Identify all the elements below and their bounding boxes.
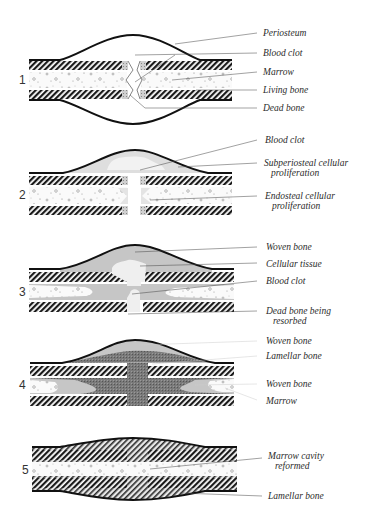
label-dead-bone-resorbed: Dead bone being resorbed	[266, 306, 331, 326]
label-dead-bone: Dead bone	[263, 103, 304, 113]
label-line-2: resorbed	[266, 316, 331, 326]
label-line-2: proliferation	[265, 201, 335, 211]
label-line-1: Marrow cavity	[268, 451, 324, 461]
label-line-2: proliferation	[264, 168, 348, 178]
label-woven-bone-4a: Woven bone	[266, 336, 312, 346]
stage-number-5: 5	[22, 464, 29, 476]
label-marrow-cavity-reformed: Marrow cavity reformed	[268, 451, 324, 471]
stage-2	[29, 140, 257, 215]
label-blood-clot: Blood clot	[263, 48, 302, 58]
label-woven-bone: Woven bone	[266, 242, 312, 252]
stage-5	[32, 438, 262, 500]
label-endosteal-proliferation: Endosteal cellular proliferation	[265, 191, 335, 211]
label-marrow: Marrow	[263, 67, 294, 77]
label-line-1: Subperiosteal cellular	[264, 158, 348, 168]
label-lamellar-bone-5: Lamellar bone	[268, 491, 324, 501]
stage-1	[29, 33, 257, 124]
stage-number-3: 3	[19, 286, 26, 298]
stage-3	[29, 245, 257, 314]
label-living-bone: Living bone	[263, 85, 308, 95]
label-marrow-4: Marrow	[266, 396, 297, 406]
label-line-1: Dead bone being	[266, 306, 331, 316]
stage-number-1: 1	[19, 74, 26, 86]
stage-4	[30, 340, 257, 406]
label-lamellar-bone: Lamellar bone	[266, 351, 322, 361]
label-line-1: Endosteal cellular	[265, 191, 335, 201]
stage-number-4: 4	[19, 379, 26, 391]
label-subperiosteal-proliferation: Subperiosteal cellular proliferation	[264, 158, 348, 178]
label-line-2: reformed	[268, 461, 324, 471]
label-periosteum: Periosteum	[263, 28, 306, 38]
stage-number-2: 2	[19, 189, 26, 201]
label-woven-bone-4b: Woven bone	[266, 379, 312, 389]
label-blood-clot-3: Blood clot	[266, 276, 305, 286]
label-cellular-tissue: Cellular tissue	[266, 259, 322, 269]
label-blood-clot-2: Blood clot	[265, 135, 304, 145]
